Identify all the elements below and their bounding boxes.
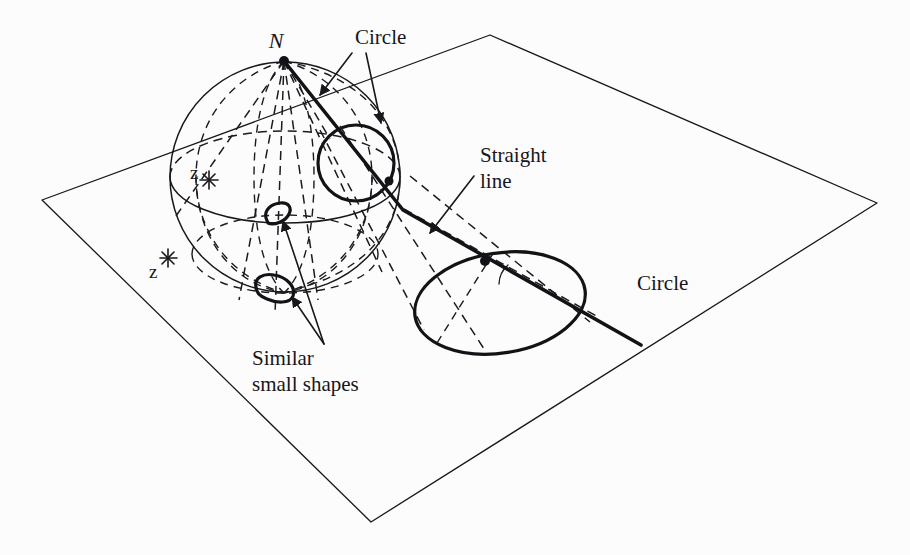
circle-sphere-dot: [385, 177, 394, 186]
label-circle-on-plane: Circle: [637, 271, 688, 295]
projection-rays: [176, 61, 600, 352]
sphere-latitude-lower: [192, 254, 378, 293]
sphere-outline: [170, 62, 400, 292]
label-z-lower: z: [149, 261, 157, 282]
similar-small-shapes-group: [256, 203, 294, 302]
label-straight-line-2: line: [480, 169, 512, 193]
circle-on-sphere-group: [318, 125, 394, 201]
leader-straight-line: [430, 176, 474, 233]
label-z-upper: z: [190, 162, 198, 183]
sphere-meridian-lower-right: [284, 177, 372, 293]
z-mark-upper-star: [200, 171, 218, 189]
projection-plane: [42, 35, 877, 522]
z-marks-group: [160, 171, 218, 267]
ray-to-far-left: [176, 61, 284, 216]
ray-to-circle-left: [284, 61, 330, 139]
diagram-canvas: N Circle Straight line Circle Similar sm…: [0, 0, 910, 555]
label-similar-shapes-2: small shapes: [252, 372, 359, 396]
stereographic-projection-figure: N Circle Straight line Circle Similar sm…: [0, 0, 910, 555]
leader-circle-sphere-a: [320, 53, 352, 95]
z-mark-lower-star: [160, 249, 177, 267]
label-north-pole: N: [268, 28, 285, 53]
plane-outline: [42, 35, 877, 522]
label-similar-shapes-1: Similar: [252, 346, 314, 370]
circle-on-sphere: [318, 125, 394, 201]
tangency-dot: [480, 256, 490, 266]
leader-small-shape-lower: [292, 297, 324, 344]
ellipse-chord-dashed: [437, 252, 494, 343]
ray-through-circle-to-ellipse-left: [320, 130, 424, 330]
sphere-meridian-center: [254, 61, 284, 293]
leader-circle-sphere-b: [366, 53, 381, 123]
sphere-meridian-right: [284, 61, 372, 293]
text-labels: N Circle Straight line Circle Similar sm…: [149, 25, 688, 396]
label-circle-on-sphere: Circle: [355, 25, 406, 49]
label-straight-line-1: Straight: [480, 143, 547, 167]
sphere-meridian-far-right: [284, 61, 400, 288]
